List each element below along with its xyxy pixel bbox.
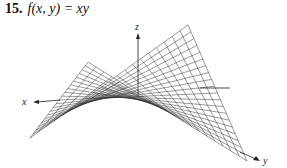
mesh-line: [164, 42, 223, 146]
mesh-line: [30, 25, 188, 138]
mesh-line: [180, 31, 239, 156]
axes: z x y: [21, 21, 268, 166]
y-axis-label: y: [262, 155, 268, 166]
x-axis: [37, 100, 60, 102]
saddle-surface-plot: z x y: [0, 0, 287, 168]
mesh-line: [188, 25, 247, 161]
mesh-line: [172, 36, 231, 151]
x-axis-arrow-icon: [33, 100, 39, 104]
z-axis-label: z: [134, 21, 139, 32]
z-axis-arrow-icon: [136, 33, 140, 39]
x-axis-label: x: [21, 96, 27, 107]
surface-mesh: [30, 25, 247, 161]
